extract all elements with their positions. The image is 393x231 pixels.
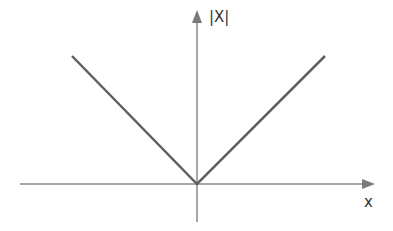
- y-axis-label: |X|: [209, 8, 229, 26]
- x-axis-label: x: [364, 193, 373, 211]
- abs-value-plot: [0, 0, 393, 231]
- y-axis-arrow-icon: [192, 10, 202, 23]
- y-axis: [192, 10, 202, 222]
- x-axis-arrow-icon: [362, 179, 375, 189]
- abs-value-curve: [72, 56, 325, 184]
